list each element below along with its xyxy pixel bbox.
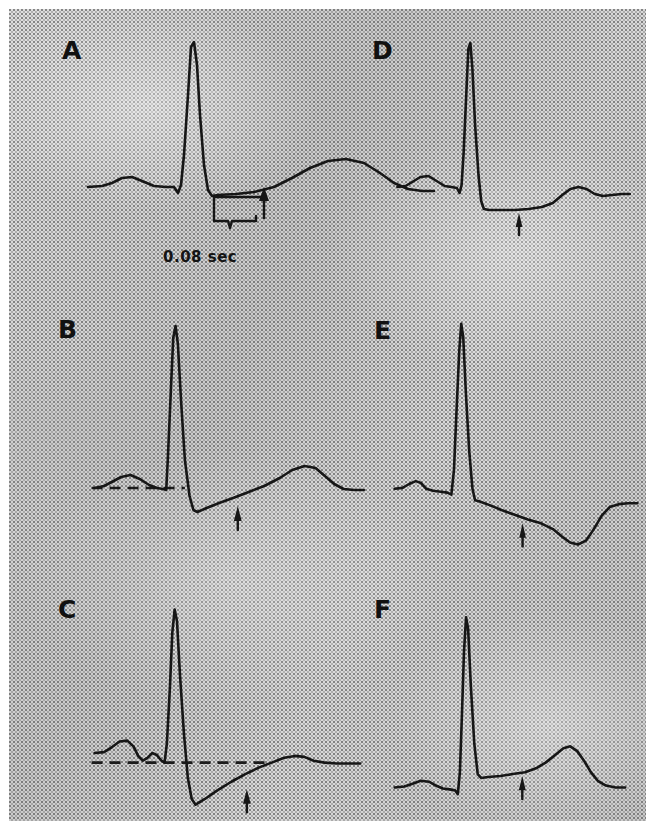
measure-brace-a bbox=[214, 197, 256, 228]
panel-f bbox=[392, 600, 632, 820]
panel-c-trace-svg bbox=[90, 600, 368, 820]
scale-caption-0-08-sec: 0.08 sec bbox=[163, 250, 237, 265]
panel-f-trace-svg bbox=[392, 600, 632, 820]
panel-d-trace-svg bbox=[392, 35, 642, 265]
measure-arrow-head-f bbox=[519, 776, 526, 790]
panel-c bbox=[90, 600, 368, 820]
panel-label-b: B bbox=[58, 317, 77, 342]
panel-label-d: D bbox=[372, 38, 393, 63]
ecg-waveform-a bbox=[88, 42, 434, 196]
panel-label-c: C bbox=[58, 597, 76, 622]
measure-arrow-head-d bbox=[516, 213, 523, 227]
panel-e bbox=[392, 316, 640, 556]
ecg-waveform-e bbox=[395, 324, 638, 545]
measure-arrow-head-c bbox=[243, 789, 251, 803]
ecg-waveform-f bbox=[395, 617, 625, 794]
panel-label-f: F bbox=[374, 597, 391, 622]
panel-label-e: E bbox=[374, 318, 391, 343]
ecg-waveform-c bbox=[95, 610, 361, 805]
panel-d bbox=[392, 35, 642, 265]
panel-e-trace-svg bbox=[392, 316, 640, 556]
ecg-waveform-d bbox=[397, 43, 629, 210]
measure-arrow-head-b bbox=[234, 506, 242, 521]
panel-label-a: A bbox=[62, 38, 81, 63]
ecg-figure: A 0.08 sec D B E bbox=[0, 0, 655, 832]
ecg-waveform-b bbox=[95, 326, 364, 512]
panel-b-trace-svg bbox=[90, 320, 370, 550]
panel-b bbox=[90, 320, 370, 550]
measure-arrow-head-e bbox=[519, 523, 526, 537]
